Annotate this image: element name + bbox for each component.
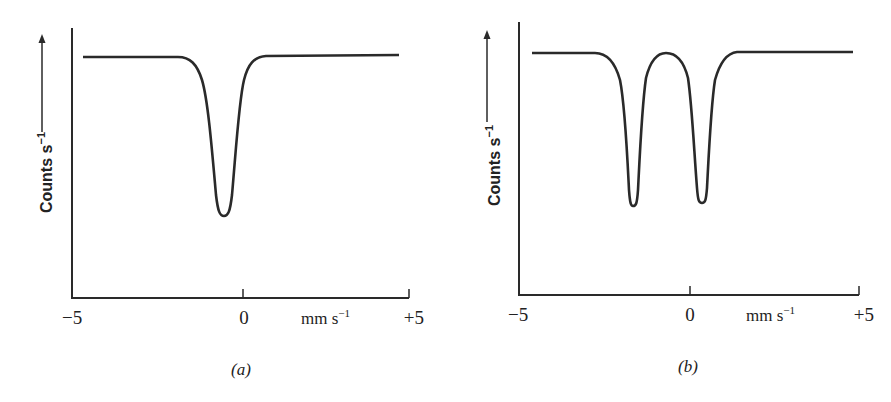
x-unit-b: mm s−1 <box>746 304 795 325</box>
y-axis-label-a: Counts s−1 <box>35 132 55 213</box>
spectrum-line-a <box>83 55 399 216</box>
tick-label-min-b: −5 <box>508 304 528 325</box>
tick-label-zero-a: 0 <box>239 307 249 328</box>
y-axis-label-b: Counts s−1 <box>483 125 503 206</box>
figure: Counts s−1 −5 0 mm s−1 +5 (a) Counts s−1… <box>0 0 891 402</box>
panel-b: Counts s−1 −5 0 mm s−1 +5 (b) <box>483 22 874 376</box>
caption-a: (a) <box>231 360 251 379</box>
tick-label-max-b: +5 <box>854 304 874 325</box>
arrow-up-icon <box>39 34 46 43</box>
svg-text:Counts s−1: Counts s−1 <box>35 132 55 213</box>
x-unit-a: mm s−1 <box>301 307 350 328</box>
tick-label-max-a: +5 <box>404 307 424 328</box>
arrow-up-icon <box>484 30 491 39</box>
tick-label-zero-b: 0 <box>685 304 695 325</box>
tick-label-min-a: −5 <box>62 307 82 328</box>
spectrum-line-b <box>532 52 853 206</box>
caption-b: (b) <box>678 357 698 376</box>
panel-a: Counts s−1 −5 0 mm s−1 +5 (a) <box>35 28 424 379</box>
svg-text:Counts s−1: Counts s−1 <box>483 125 503 206</box>
